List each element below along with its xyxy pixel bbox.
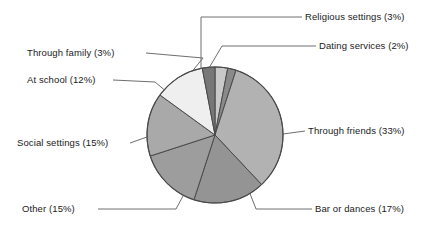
label-through-friends: Through friends (33%): [308, 125, 405, 136]
pie-slices: [147, 67, 283, 203]
leader-line-bar-or-dances: [249, 191, 312, 209]
label-through-family: Through family (3%): [27, 47, 114, 58]
leader-line-religious-settings: [201, 17, 302, 68]
leader-line-at-school: [113, 80, 168, 93]
label-social-settings: Social settings (15%): [17, 137, 108, 148]
leader-line-through-friends: [283, 131, 305, 134]
pie-chart-figure: Religious settings (3%) Dating services …: [0, 0, 429, 233]
label-other: Other (15%): [22, 203, 75, 214]
label-religious-settings: Religious settings (3%): [305, 11, 404, 22]
leader-line-other: [98, 196, 183, 209]
label-at-school: At school (12%): [27, 74, 96, 85]
pie-chart-canvas: [0, 0, 429, 233]
leader-line-social-settings: [130, 137, 147, 143]
label-dating-services: Dating services (2%): [319, 40, 409, 51]
leader-line-dating-services: [209, 46, 316, 68]
label-bar-or-dances: Bar or dances (17%): [315, 203, 404, 214]
